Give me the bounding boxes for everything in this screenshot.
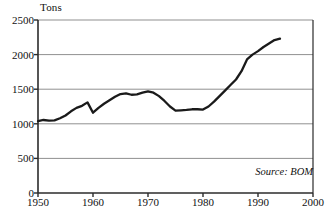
x-tick-label: 1990 [247,196,269,208]
plot-area [0,0,335,223]
y-tick-label: 1500 [2,83,34,95]
x-tick-label: 1970 [137,196,159,208]
y-tick-label: 2500 [2,14,34,26]
y-tick-label: 500 [2,152,34,164]
x-tick-label: 1950 [27,196,49,208]
y-axis-tick-labels: 2500 2000 1500 1000 500 0 [0,0,34,223]
y-axis-title: Tons [40,1,62,13]
data-series-line [38,39,280,121]
x-tick-label: 2000 [302,196,324,208]
y-tick-label: 2000 [2,49,34,61]
x-tick-label: 1980 [192,196,214,208]
source-annotation: Source: BOM [255,166,313,177]
y-tick-label: 1000 [2,118,34,130]
x-tick-label: 1960 [82,196,104,208]
chart-figure: Tons 2500 2000 1500 1000 500 0 1950 1960… [0,0,335,223]
